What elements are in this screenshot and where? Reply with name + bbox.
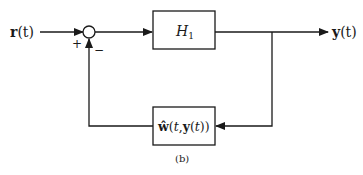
feedback-block-label: ŵ(t,y(t)) [157,119,210,134]
feedback-block-diagram: r(t) + − H1 y(t) ŵ(t,y(t)) (b) [0,0,363,175]
feedback-branch-arrow [216,32,272,126]
summing-junction [83,26,95,38]
output-label: y(t) [331,24,357,40]
minus-sign: − [94,43,104,57]
plus-sign: + [72,37,82,51]
figure-caption: (b) [175,153,189,164]
input-label: r(t) [10,24,34,40]
